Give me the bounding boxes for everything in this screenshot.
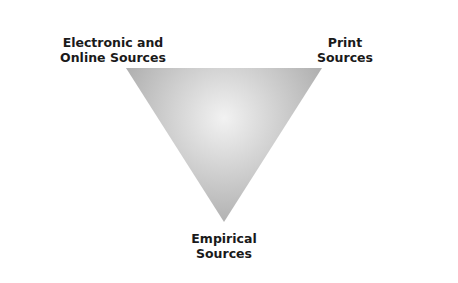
label-line: Electronic and: [40, 35, 186, 50]
label-line: Sources: [184, 246, 264, 261]
label-electronic-online-sources: Electronic and Online Sources: [40, 35, 186, 65]
label-print-sources: Print Sources: [310, 35, 380, 65]
label-line: Sources: [310, 50, 380, 65]
label-line: Print: [310, 35, 380, 50]
label-empirical-sources: Empirical Sources: [184, 231, 264, 261]
inverted-triangle-shape: [126, 68, 322, 222]
label-line: Empirical: [184, 231, 264, 246]
label-line: Online Sources: [40, 50, 186, 65]
